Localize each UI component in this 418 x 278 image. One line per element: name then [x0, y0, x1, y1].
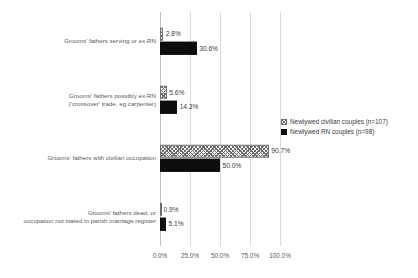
x-tick-label: 100.0% [269, 251, 291, 260]
bar-value-rn: 50.0% [223, 162, 242, 170]
plot-area: Grooms' fathers serving or ex-RN 2.8% 30… [160, 12, 280, 246]
bar-rn[interactable] [160, 159, 220, 172]
bar-wrap-rn: 14.3% [160, 101, 280, 114]
bar-civilian[interactable] [160, 145, 269, 158]
legend-item-civilian[interactable]: Newlywed civilian couples (n=107) [281, 118, 388, 126]
category-label: Grooms' fathers serving or ex-RN [0, 37, 156, 46]
category-label: Grooms' fathers with civilian occupation [0, 154, 156, 163]
legend-label: Newlywed civilian couples (n=107) [290, 118, 388, 126]
bar-value-civilian: 0.9% [164, 206, 179, 214]
x-tick-label: 25.0% [181, 251, 199, 260]
bar-civilian[interactable] [160, 203, 162, 216]
category-row: Grooms' fathers possibly ex-RN ('crossov… [160, 71, 280, 130]
bar-value-civilian: 5.6% [169, 89, 184, 97]
x-tick-label: 0.0% [153, 251, 168, 260]
bar-group: 5.6% 14.3% [160, 85, 280, 116]
bar-chart: Grooms' fathers serving or ex-RN 2.8% 30… [0, 0, 418, 278]
bar-value-rn: 30.6% [199, 45, 218, 53]
bar-wrap-civilian: 2.8% [160, 28, 280, 41]
bar-group: 90.7% 50.0% [160, 143, 280, 174]
bar-wrap-rn: 5.1% [160, 218, 280, 231]
bar-group: 0.9% 5.1% [160, 202, 280, 233]
category-row: Grooms' fathers dead, or occupation not … [160, 188, 280, 247]
bar-wrap-civilian: 5.6% [160, 86, 280, 99]
bar-wrap-civilian: 0.9% [160, 203, 280, 216]
bar-civilian[interactable] [160, 28, 163, 41]
bar-wrap-civilian: 90.7% [160, 145, 280, 158]
x-tick-label: 75.0% [241, 251, 259, 260]
category-label: Grooms' fathers possibly ex-RN ('crossov… [0, 91, 156, 108]
legend-swatch-icon [281, 129, 287, 135]
category-row: Grooms' fathers with civilian occupation… [160, 129, 280, 188]
bar-rn[interactable] [160, 101, 177, 114]
x-axis: 0.0% 25.0% 50.0% 75.0% 100.0% [160, 251, 280, 263]
legend-swatch-icon [281, 119, 287, 125]
bar-wrap-rn: 50.0% [160, 159, 280, 172]
bar-value-rn: 5.1% [169, 220, 184, 228]
bar-rn[interactable] [160, 218, 166, 231]
bar-group: 2.8% 30.6% [160, 26, 280, 57]
bar-value-civilian: 90.7% [271, 147, 290, 155]
bar-civilian[interactable] [160, 86, 167, 99]
bar-value-rn: 14.3% [180, 103, 199, 111]
legend-item-rn[interactable]: Newlywed RN couples (n=98) [281, 128, 388, 136]
category-row: Grooms' fathers serving or ex-RN 2.8% 30… [160, 12, 280, 71]
bar-rn[interactable] [160, 42, 197, 55]
bar-value-civilian: 2.8% [166, 30, 181, 38]
category-label: Grooms' fathers dead, or occupation not … [0, 208, 156, 225]
chart-legend: Newlywed civilian couples (n=107) Newlyw… [281, 118, 388, 136]
bar-wrap-rn: 30.6% [160, 42, 280, 55]
x-tick-label: 50.0% [211, 251, 229, 260]
legend-label: Newlywed RN couples (n=98) [290, 128, 374, 136]
